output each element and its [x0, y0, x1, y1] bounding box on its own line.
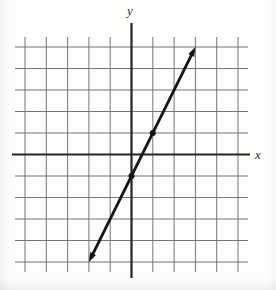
arrowhead-upper	[188, 47, 195, 57]
y-axis-label: y	[127, 4, 133, 17]
arrowhead-lower	[89, 252, 96, 262]
point-marker	[150, 130, 156, 136]
x-axis-label: x	[255, 148, 261, 161]
point-marker	[129, 173, 135, 179]
scanned-graph-page: y x	[0, 0, 276, 290]
coordinate-grid-figure	[0, 0, 276, 290]
